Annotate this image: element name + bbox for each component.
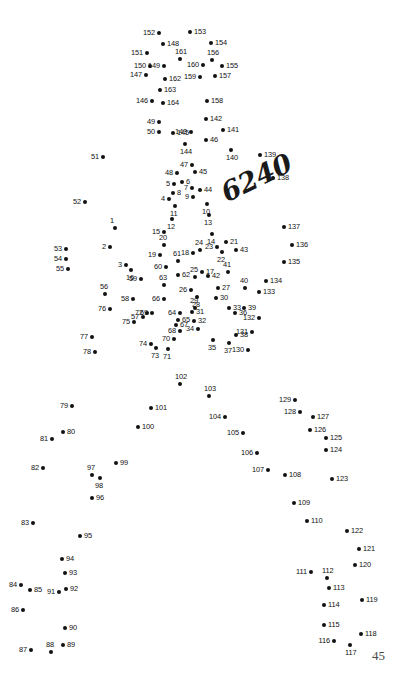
dot-number-label: 31 (196, 308, 204, 316)
dot-number-label: 136 (296, 241, 308, 249)
dot-marker (178, 329, 182, 333)
dot-number-label: 58 (121, 295, 129, 303)
dot-marker (210, 58, 214, 62)
dot-marker (201, 63, 205, 67)
dot-number-label: 135 (288, 258, 300, 266)
dot-marker (188, 30, 192, 34)
dot-marker (162, 243, 166, 247)
dot-marker (192, 319, 196, 323)
dot-marker (211, 338, 215, 342)
dot-marker (157, 120, 161, 124)
dot-marker (200, 270, 204, 274)
dot-marker (29, 648, 33, 652)
dot-marker (198, 75, 202, 79)
dot-number-label: 92 (70, 585, 78, 593)
dot-number-label: 98 (95, 482, 103, 490)
dot-number-label: 137 (288, 223, 300, 231)
dot-marker (61, 430, 65, 434)
dot-number-label: 120 (359, 561, 371, 569)
dot-number-label: 156 (207, 49, 219, 57)
dot-marker (162, 283, 166, 287)
dot-number-label: 44 (204, 186, 212, 194)
dot-marker (63, 626, 67, 630)
dot-marker (322, 623, 326, 627)
dot-number-label: 35 (208, 344, 216, 352)
dot-marker (209, 41, 213, 45)
dot-marker (93, 350, 97, 354)
dot-number-label: 127 (317, 413, 329, 421)
dot-marker (19, 583, 23, 587)
dot-marker (190, 310, 194, 314)
dot-marker (175, 171, 179, 175)
dot-number-label: 88 (46, 641, 54, 649)
dot-number-label: 105 (227, 429, 239, 437)
dot-number-label: 41 (223, 261, 231, 269)
dot-number-label: 125 (330, 434, 342, 442)
dot-marker (131, 297, 135, 301)
dot-marker (70, 404, 74, 408)
dot-number-label: 73 (151, 352, 159, 360)
dot-marker (90, 335, 94, 339)
dot-number-label: 55 (56, 265, 64, 273)
dot-number-label: 46 (210, 136, 218, 144)
dot-marker (31, 521, 35, 525)
dot-marker (114, 461, 118, 465)
dot-marker (213, 74, 217, 78)
dot-marker (214, 296, 218, 300)
dot-marker (113, 226, 117, 230)
dot-number-label: 42 (212, 272, 220, 280)
dot-number-label: 19 (148, 251, 156, 259)
dot-number-label: 76 (98, 305, 106, 313)
dot-marker (204, 138, 208, 142)
dot-marker (191, 195, 195, 199)
dot-marker (63, 571, 67, 575)
dot-number-label: 152 (143, 29, 155, 37)
dot-number-label: 132 (243, 314, 255, 322)
dot-number-label: 141 (227, 126, 239, 134)
dot-number-label: 113 (333, 584, 344, 592)
dot-marker (327, 586, 331, 590)
dot-marker (170, 217, 174, 221)
dot-number-label: 140 (226, 154, 238, 162)
dot-marker (205, 99, 209, 103)
dot-marker (50, 437, 54, 441)
dot-marker (148, 64, 152, 68)
dot-number-label: 115 (328, 621, 339, 629)
dot-number-label: 3 (118, 261, 122, 269)
dot-marker (171, 191, 175, 195)
dot-number-label: 29 (190, 297, 198, 305)
dot-number-label: 128 (284, 408, 296, 416)
dot-marker (233, 311, 237, 315)
dot-number-label: 67 (180, 321, 188, 329)
dot-number-label: 109 (298, 499, 310, 507)
dot-number-label: 70 (162, 335, 170, 343)
dot-marker (41, 466, 45, 470)
dot-marker (220, 250, 224, 254)
dot-marker (189, 130, 193, 134)
dot-marker (139, 277, 143, 281)
dot-marker (150, 99, 154, 103)
dot-marker (144, 73, 148, 77)
dot-number-label: 131 (236, 328, 248, 336)
dot-number-label: 93 (69, 569, 77, 577)
dot-number-label: 80 (67, 428, 75, 436)
dot-marker (224, 240, 228, 244)
dot-marker (193, 170, 197, 174)
dot-number-label: 49 (147, 118, 155, 126)
dot-number-label: 71 (163, 353, 171, 361)
dot-number-label: 134 (270, 277, 282, 285)
dot-number-label: 56 (100, 283, 108, 291)
dot-number-label: 82 (31, 464, 39, 472)
dot-marker (61, 643, 65, 647)
dot-number-label: 7 (184, 184, 188, 192)
dot-marker (83, 200, 87, 204)
dot-marker (311, 415, 315, 419)
dot-number-label: 142 (210, 115, 222, 123)
dot-marker (198, 248, 202, 252)
dot-marker (28, 588, 32, 592)
dot-number-label: 161 (175, 48, 187, 56)
dot-marker (57, 590, 61, 594)
dot-number-label: 145 (177, 129, 189, 137)
dot-marker (64, 587, 68, 591)
dot-number-label: 50 (147, 128, 155, 136)
